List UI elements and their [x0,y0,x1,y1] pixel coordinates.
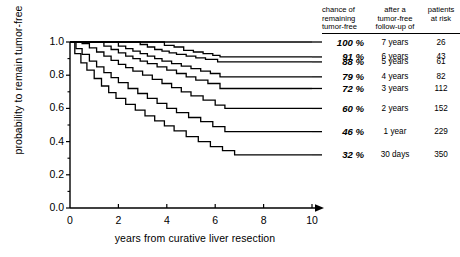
legend-header-row: chance of remaining tumor-free after a t… [322,6,460,32]
legend-followup: 30 days [368,150,422,159]
survival-curves-group [70,42,312,155]
legend-followup: 3 years [368,84,422,93]
legend-percent: 46 % [322,126,368,137]
survival-curve [70,42,312,89]
survival-curve [70,42,312,155]
legend-followup: 4 years [368,72,422,81]
legend-row: 32 %30 days350 [322,149,460,160]
legend-followup: 5 years [368,57,422,66]
legend-percent: 60 % [322,103,368,114]
legend-row: 88 %5 years61 [322,56,460,67]
legend-percent: 88 % [322,56,368,67]
legend-row: 100 %7 years26 [322,37,460,48]
legend-followup: 7 years [368,38,422,47]
legend-percent: 72 % [322,83,368,94]
legend-row: 72 %3 years112 [322,83,460,94]
legend-percent: 32 % [322,149,368,160]
legend-header-chance: chance of remaining tumor-free [322,6,368,32]
axes-group [70,42,324,212]
legend-at-risk: 26 [422,38,460,47]
legend-row: 46 %1 year229 [322,126,460,137]
legend-at-risk: 112 [422,84,460,93]
legend-header-followup: after a tumor-free follow-up of [368,6,422,32]
x-axis-arrowhead [315,204,324,212]
survival-chart-figure: probability to remain tumor-free years f… [0,0,460,257]
legend-percent: 100 % [322,37,368,48]
legend-at-risk: 82 [422,72,460,81]
legend-at-risk: 229 [422,127,460,136]
legend-header-rule [322,33,460,34]
legend-header-at-risk: patients at risk [422,6,460,32]
legend-followup: 1 year [368,127,422,136]
legend-at-risk: 152 [422,104,460,113]
legend-row: 60 %2 years152 [322,103,460,114]
survival-curve [70,42,312,57]
legend-at-risk: 350 [422,150,460,159]
survival-curve [70,42,312,132]
legend-percent: 79 % [322,71,368,82]
survival-curve [70,42,312,108]
survival-curve [70,42,312,77]
legend-leader-lines [312,42,322,155]
legend-table: chance of remaining tumor-free after a t… [322,0,460,190]
legend-row: 79 %4 years82 [322,71,460,82]
legend-followup: 2 years [368,104,422,113]
legend-at-risk: 61 [422,57,460,66]
survival-curve [70,42,312,62]
